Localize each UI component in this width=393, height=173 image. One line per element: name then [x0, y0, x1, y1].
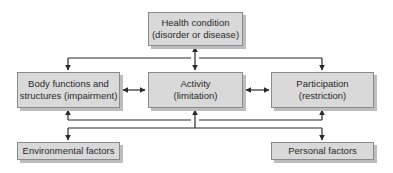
health-condition-node: Health condition (disorder or disease): [148, 12, 243, 46]
participation-label: Participation: [296, 78, 348, 90]
body-functions-node: Body functions and structures (impairmen…: [17, 72, 120, 108]
personal-factors-node: Personal factors: [271, 142, 374, 160]
activity-label: Activity: [180, 78, 210, 90]
health-condition-label: Health condition: [161, 17, 229, 29]
environmental-factors-label: Environmental factors: [23, 145, 115, 157]
health-condition-sublabel: (disorder or disease): [152, 29, 239, 41]
environmental-factors-node: Environmental factors: [17, 142, 120, 160]
personal-factors-label: Personal factors: [288, 145, 357, 157]
body-functions-label: Body functions and: [28, 78, 109, 90]
activity-sublabel: (limitation): [174, 90, 218, 102]
activity-node: Activity (limitation): [148, 72, 243, 108]
body-functions-sublabel: structures (impairment): [20, 90, 118, 102]
participation-sublabel: (restriction): [299, 90, 347, 102]
participation-node: Participation (restriction): [271, 72, 374, 108]
